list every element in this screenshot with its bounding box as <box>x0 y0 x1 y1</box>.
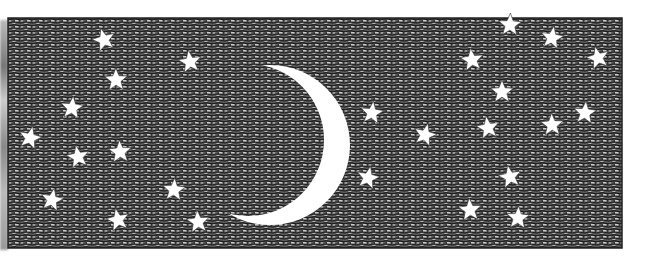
night-sky-illustration <box>0 0 663 264</box>
